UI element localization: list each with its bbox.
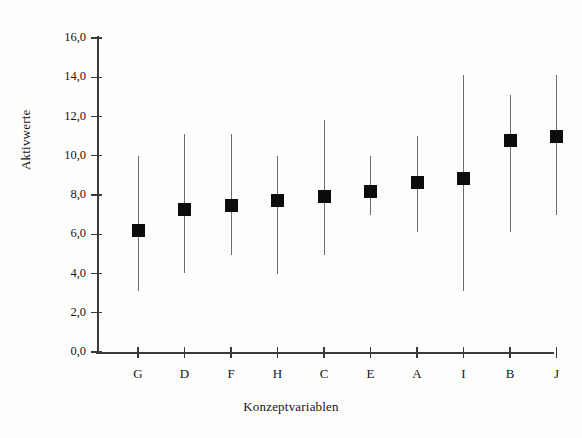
error-bar-whisker	[324, 120, 325, 254]
x-tick-mark	[323, 347, 324, 358]
chart-figure: Aktivwerte 0,02,04,06,08,010,012,014,016…	[0, 0, 582, 438]
y-tick-mark	[91, 116, 102, 117]
data-point-marker	[178, 203, 191, 216]
x-tick-label: H	[263, 366, 293, 382]
y-tick-mark	[91, 273, 102, 274]
data-point-marker	[550, 130, 563, 143]
y-tick-label-container: 16,0	[38, 31, 86, 43]
y-tick-mark	[91, 194, 102, 195]
data-point-marker	[504, 134, 517, 147]
y-tick-label-container: 4,0	[38, 267, 86, 279]
y-tick-label-container: 6,0	[38, 227, 86, 239]
y-tick-label-container: 12,0	[38, 110, 86, 122]
y-tick-mark	[91, 351, 102, 352]
y-tick-label-container: 14,0	[38, 70, 86, 82]
y-tick-label-container: 2,0	[38, 306, 86, 318]
data-point-marker	[225, 199, 238, 212]
data-point-marker	[411, 176, 424, 189]
x-tick-label: A	[402, 366, 432, 382]
y-tick-label: 0,0	[42, 345, 86, 357]
x-tick-label: E	[356, 366, 386, 382]
x-tick-label: B	[495, 366, 525, 382]
y-tick-label: 14,0	[42, 70, 86, 82]
error-bar-whisker	[231, 134, 232, 255]
y-tick-label-container: 0,0	[38, 345, 86, 357]
y-tick-label: 16,0	[42, 31, 86, 43]
x-tick-label: G	[123, 366, 153, 382]
y-tick-mark	[91, 37, 102, 38]
data-point-marker	[271, 194, 284, 207]
x-axis-title: Konzeptvariablen	[0, 399, 582, 415]
y-tick-label-container: 10,0	[38, 149, 86, 161]
data-point-marker	[457, 172, 470, 185]
y-tick-mark	[91, 312, 102, 313]
x-tick-label: I	[449, 366, 479, 382]
x-tick-mark	[277, 347, 278, 358]
y-tick-mark	[91, 155, 102, 156]
x-tick-mark	[370, 347, 371, 358]
x-tick-label: J	[542, 366, 572, 382]
x-axis-line	[96, 352, 554, 354]
data-point-marker	[364, 185, 377, 198]
x-tick-mark	[416, 347, 417, 358]
y-tick-label: 10,0	[42, 149, 86, 161]
y-tick-mark	[91, 77, 102, 78]
y-axis-title-container: Aktivwerte	[0, 0, 60, 438]
error-bar-whisker	[510, 95, 511, 232]
x-tick-label: F	[216, 366, 246, 382]
error-bar-whisker	[556, 75, 557, 214]
x-tick-label: D	[170, 366, 200, 382]
y-tick-label-container: 8,0	[38, 188, 86, 200]
y-tick-mark	[91, 234, 102, 235]
y-tick-label: 4,0	[42, 267, 86, 279]
x-tick-mark	[230, 347, 231, 358]
x-tick-mark	[509, 347, 510, 358]
data-point-marker	[132, 224, 145, 237]
data-point-marker	[318, 190, 331, 203]
x-tick-label: C	[309, 366, 339, 382]
error-bar-whisker	[277, 156, 278, 274]
x-tick-mark	[463, 347, 464, 358]
x-tick-mark	[184, 347, 185, 358]
y-axis-title: Aktivwerte	[18, 50, 38, 170]
y-tick-label: 12,0	[42, 110, 86, 122]
x-tick-mark	[137, 347, 138, 358]
y-tick-label: 6,0	[42, 227, 86, 239]
y-tick-label: 2,0	[42, 306, 86, 318]
x-tick-mark	[556, 347, 557, 358]
y-tick-label: 8,0	[42, 188, 86, 200]
